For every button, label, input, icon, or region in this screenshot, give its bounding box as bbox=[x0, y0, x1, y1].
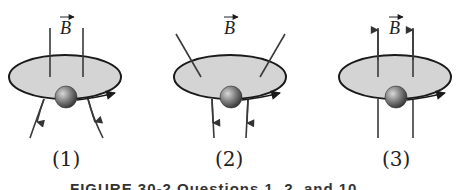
field-label-2: B bbox=[224, 18, 235, 39]
field-line-arrow bbox=[88, 99, 95, 122]
panel-1 bbox=[9, 28, 121, 138]
field-label-3: B bbox=[389, 18, 400, 39]
field-line-arrow bbox=[37, 99, 44, 122]
panel-2 bbox=[174, 34, 286, 138]
panel-label-1: (1) bbox=[52, 147, 80, 171]
field-line-arrow bbox=[247, 99, 248, 123]
field-label-1: B bbox=[60, 18, 71, 39]
figure-caption: FIGURE 30-2 Questions 1, 2, and 10. bbox=[70, 180, 363, 190]
charged-particle bbox=[55, 86, 77, 108]
panel-label-2: (2) bbox=[215, 147, 243, 171]
charged-particle bbox=[220, 86, 242, 108]
panel-label-3: (3) bbox=[382, 147, 410, 171]
panel-3 bbox=[339, 28, 451, 138]
charged-particle bbox=[385, 86, 407, 108]
field-line-arrow bbox=[212, 99, 213, 123]
